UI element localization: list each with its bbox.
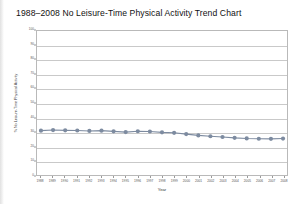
data-point-marker [99,129,103,133]
x-tick-mark [150,176,151,178]
series-line-chart [37,31,287,175]
x-tick-label: 1996 [134,179,141,183]
data-point-marker [63,128,67,132]
x-tick-label: 2004 [232,179,239,183]
x-tick-mark [138,176,139,178]
data-point-marker [160,130,164,134]
x-tick-mark [272,176,273,178]
data-point-marker [257,137,261,141]
plot-area [37,31,287,175]
x-tick-label: 2000 [183,179,190,183]
data-point-marker [220,135,224,139]
y-axis-title: % No Leisure-Time Physical Activity [11,30,21,176]
data-point-marker [233,136,237,140]
data-point-marker [196,133,200,137]
plot-frame [36,30,288,176]
x-tick-label: 2007 [268,179,275,183]
x-tick-label: 2002 [207,179,214,183]
data-point-marker [112,129,116,133]
x-tick-label: 2008 [280,179,287,183]
chart-title: 1988–2008 No Leisure-Time Physical Activ… [16,8,241,18]
x-tick-mark [162,176,163,178]
x-tick-label: 1992 [85,179,92,183]
x-tick-label: 2001 [195,179,202,183]
series-markers [39,128,285,141]
x-tick-label: 1997 [146,179,153,183]
y-axis-ticks: 1009080706050403020100 [22,30,35,176]
x-tick-label: 1988 [36,179,43,183]
x-tick-mark [223,176,224,178]
x-tick-mark [125,176,126,178]
data-point-marker [172,131,176,135]
x-tick-label: 1990 [61,179,68,183]
x-tick-label: 1994 [110,179,117,183]
x-tick-mark [52,176,53,178]
x-tick-mark [174,176,175,178]
x-tick-mark [247,176,248,178]
x-tick-mark [260,176,261,178]
x-tick-label: 1998 [158,179,165,183]
x-tick-label: 1995 [122,179,129,183]
x-tick-mark [101,176,102,178]
data-point-marker [75,128,79,132]
x-tick-mark [89,176,90,178]
data-point-marker [281,136,285,140]
data-point-marker [269,137,273,141]
data-point-marker [148,129,152,133]
x-tick-label: 2003 [219,179,226,183]
x-axis-ticks: 1988198919901991199219931994199519961997… [36,176,288,187]
x-tick-mark [199,176,200,178]
x-tick-mark [284,176,285,178]
x-tick-mark [77,176,78,178]
x-tick-label: 1989 [49,179,56,183]
x-tick-label: 1993 [97,179,104,183]
data-point-marker [245,136,249,140]
data-point-marker [87,129,91,133]
data-point-marker [184,132,188,136]
x-tick-label: 1999 [171,179,178,183]
data-point-marker [136,129,140,133]
x-tick-mark [235,176,236,178]
page-edge-artifact [0,0,4,204]
x-tick-label: 2006 [256,179,263,183]
data-point-marker [208,134,212,138]
data-point-marker [51,128,55,132]
x-tick-label: 2005 [244,179,251,183]
x-tick-mark [113,176,114,178]
x-tick-mark [64,176,65,178]
data-point-marker [124,130,128,134]
x-axis-title: Year [36,187,288,192]
data-point-marker [39,129,43,133]
x-tick-mark [186,176,187,178]
x-tick-mark [211,176,212,178]
x-tick-label: 1991 [73,179,80,183]
x-tick-mark [40,176,41,178]
